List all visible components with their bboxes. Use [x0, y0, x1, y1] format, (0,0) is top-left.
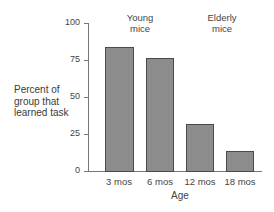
y-tick — [84, 23, 88, 24]
y-tick-label: 50 — [60, 91, 80, 101]
x-axis-label: Age — [160, 190, 200, 201]
y-axis — [88, 23, 89, 172]
y-tick-label: 75 — [60, 54, 80, 64]
bar-12-mos — [186, 124, 214, 172]
x-tick-label: 6 mos — [140, 176, 180, 187]
bar-18-mos — [226, 151, 254, 172]
x-tick-label: 12 mos — [180, 176, 220, 187]
bar-6-mos — [146, 58, 174, 172]
y-tick — [84, 134, 88, 135]
x-tick-label: 18 mos — [220, 176, 260, 187]
annotation-line: Elderly — [197, 12, 247, 23]
x-tick-label: 3 mos — [99, 176, 139, 187]
y-tick-label: 0 — [60, 165, 80, 175]
y-tick-label: 100 — [60, 17, 80, 27]
y-tick — [84, 171, 88, 172]
bar-3-mos — [105, 47, 134, 172]
y-tick-label: 25 — [60, 128, 80, 138]
y-axis-label-line: learned task — [14, 107, 68, 119]
annotation-line: mice — [115, 23, 165, 34]
annotation-line: Young — [115, 12, 165, 23]
y-tick — [84, 60, 88, 61]
annotation-elderly-mice: Elderly mice — [197, 12, 247, 34]
y-tick — [84, 97, 88, 98]
y-axis-label: Percent of group that learned task — [14, 84, 68, 119]
annotation-young-mice: Young mice — [115, 12, 165, 34]
annotation-line: mice — [197, 23, 247, 34]
